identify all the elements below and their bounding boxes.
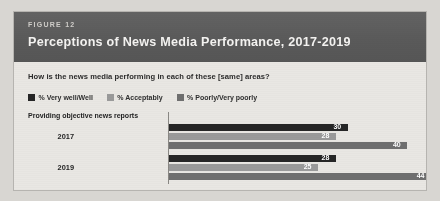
bar xyxy=(169,173,426,180)
legend-item-label: % Acceptably xyxy=(117,94,162,101)
bar-group-year-label: 2017 xyxy=(58,132,74,141)
legend-swatch-icon xyxy=(107,94,114,101)
chart-plot-area: Providing objective news reports 2017 30… xyxy=(14,112,426,190)
legend-swatch-icon xyxy=(28,94,35,101)
legend-item: % Very well/Well xyxy=(28,94,93,101)
bar xyxy=(169,164,318,171)
bar-value-label: 44 xyxy=(417,172,425,179)
bar-value-label: 28 xyxy=(322,154,330,161)
category-axis-label: Providing objective news reports xyxy=(28,112,138,119)
bar-value-label: 30 xyxy=(334,123,342,130)
figure-subtitle-question: How is the news media performing in each… xyxy=(28,72,270,81)
bar-value-label: 40 xyxy=(393,141,401,148)
legend-item: % Acceptably xyxy=(107,94,163,101)
figure-header-band: FIGURE 12 Perceptions of News Media Perf… xyxy=(14,12,426,62)
bar-group-2019: 2019 282544 xyxy=(14,155,426,181)
chart-legend: % Very well/Well % Acceptably % Poorly/V… xyxy=(28,94,257,101)
legend-swatch-icon xyxy=(177,94,184,101)
bar xyxy=(169,133,336,140)
figure-number-label: FIGURE 12 xyxy=(28,21,75,28)
figure-title: Perceptions of News Media Performance, 2… xyxy=(28,35,351,49)
bar xyxy=(169,155,336,162)
legend-item: % Poorly/Very poorly xyxy=(177,94,258,101)
bar xyxy=(169,124,348,131)
legend-item-label: % Poorly/Very poorly xyxy=(187,94,257,101)
figure-card: FIGURE 12 Perceptions of News Media Perf… xyxy=(14,12,426,190)
bar-group-2017: 2017 302840 xyxy=(14,124,426,150)
bar xyxy=(169,142,407,149)
bar-value-label: 25 xyxy=(304,163,312,170)
bar-group-year-label: 2019 xyxy=(58,163,74,172)
legend-item-label: % Very well/Well xyxy=(39,94,93,101)
bar-value-label: 28 xyxy=(322,132,330,139)
